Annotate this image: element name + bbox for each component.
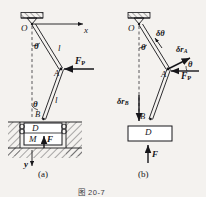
panel-label-a: (a): [38, 170, 48, 179]
figure-container: O x y θ l l θ A B D M F FP (a) O θ δθ A …: [0, 0, 206, 197]
label-moment-m-a: M: [29, 135, 37, 144]
label-rod-upper-a: l: [58, 44, 61, 53]
label-angle-at-a-b: θ: [188, 60, 192, 69]
label-block-d-b: D: [145, 128, 152, 137]
point-b-marker-a: [42, 118, 45, 121]
label-force-f-a: F: [47, 135, 53, 144]
ceiling-support-b: [128, 13, 150, 19]
rod-lower-a: [42, 69, 64, 120]
label-angle-theta-b: θ: [141, 43, 146, 52]
label-force-fp-a: FP: [75, 57, 85, 67]
label-rod-lower-a: l: [55, 96, 58, 105]
label-angle-theta-a: θ: [34, 42, 39, 51]
label-block-d-a: D: [32, 124, 39, 133]
mechanism-drawing: [0, 0, 206, 197]
ceiling-support-a: [21, 13, 43, 19]
slider-block-d-a: [20, 123, 67, 145]
label-joint-a-b: A: [161, 70, 166, 79]
label-force-f-b: F: [152, 150, 158, 159]
label-angle-theta-lower-a: θ: [33, 100, 38, 109]
joint-a-marker: [60, 68, 63, 71]
panel-label-b: (b): [138, 170, 149, 179]
virtual-disp-a-arrow: [168, 58, 190, 69]
label-point-b-a: B: [35, 110, 40, 119]
label-x-axis-a: x: [84, 26, 88, 35]
figure-caption: 图 20-7: [78, 189, 105, 197]
label-virtual-disp-b: δrB: [117, 97, 129, 107]
label-force-fp-b: FP: [181, 72, 191, 82]
label-point-b-b: B: [140, 112, 145, 121]
point-b-marker-b: [149, 118, 152, 121]
label-pivot-o-a: O: [21, 24, 28, 33]
rod-lower-b: [149, 69, 171, 120]
label-virtual-angle-b: δθ: [156, 29, 165, 38]
label-y-axis-a: y: [24, 160, 28, 169]
label-virtual-disp-a: δrA: [176, 45, 188, 55]
label-pivot-o-b: O: [128, 24, 135, 33]
label-joint-a: A: [54, 69, 59, 78]
